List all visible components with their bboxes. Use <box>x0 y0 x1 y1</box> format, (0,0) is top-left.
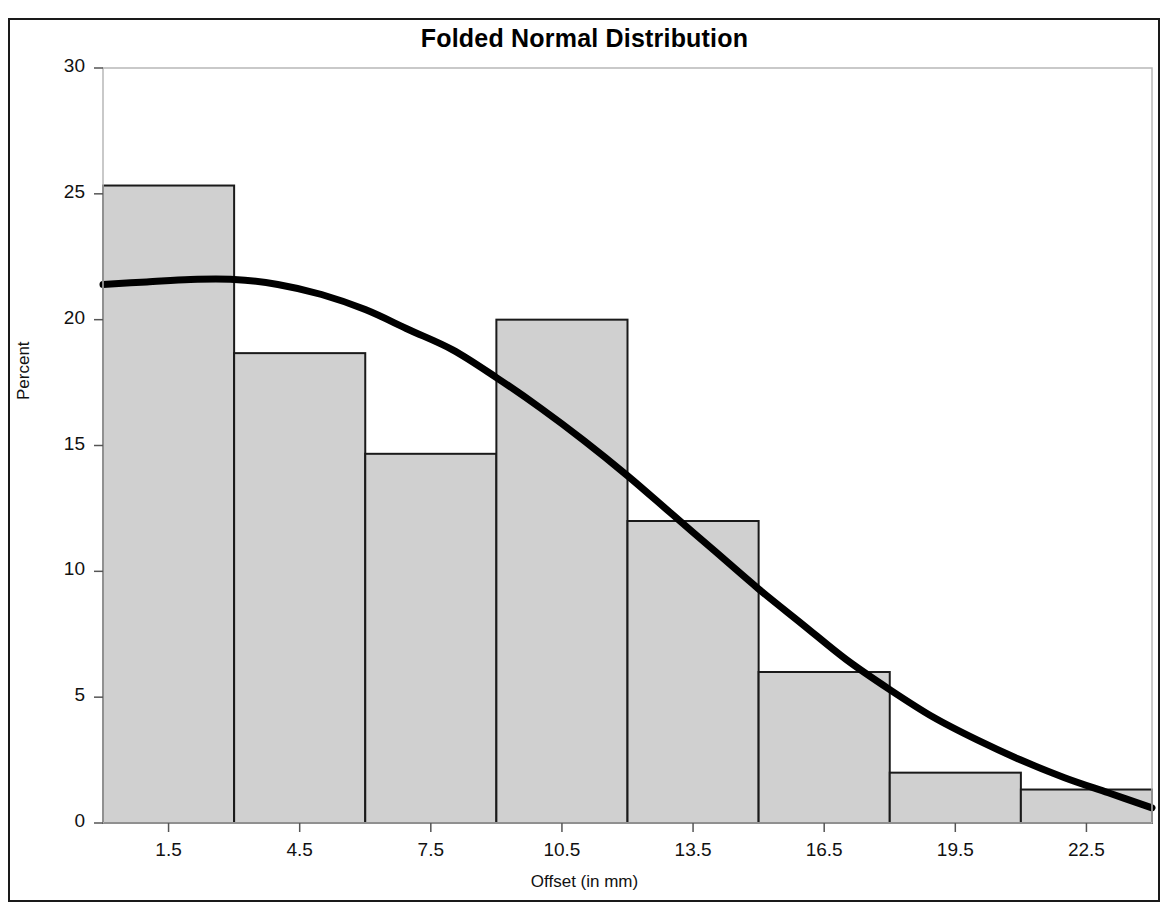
x-tick-label: 22.5 <box>1036 839 1136 861</box>
y-axis-label: Percent <box>14 341 34 400</box>
x-tick-label: 19.5 <box>905 839 1005 861</box>
histogram-bar <box>234 353 365 823</box>
x-tick-label: 13.5 <box>643 839 743 861</box>
y-tick-label: 15 <box>23 433 85 455</box>
histogram-bar <box>890 773 1021 823</box>
y-tick-label: 10 <box>23 558 85 580</box>
histogram-bar <box>365 454 496 823</box>
histogram-bar <box>496 320 627 823</box>
x-tick-label: 10.5 <box>512 839 612 861</box>
chart-figure: Folded Normal Distribution Percent Offse… <box>0 0 1169 920</box>
x-tick-label: 4.5 <box>250 839 350 861</box>
y-tick-label: 5 <box>23 684 85 706</box>
x-tick-label: 7.5 <box>381 839 481 861</box>
y-tick-label: 20 <box>23 307 85 329</box>
histogram-bar <box>759 672 890 823</box>
plot-area <box>0 0 1169 920</box>
y-tick-label: 30 <box>23 55 85 77</box>
x-axis-label: Offset (in mm) <box>0 872 1169 892</box>
x-tick-label: 1.5 <box>119 839 219 861</box>
histogram-bar <box>628 521 759 823</box>
y-tick-label: 0 <box>23 810 85 832</box>
x-tick-label: 16.5 <box>774 839 874 861</box>
y-tick-label: 25 <box>23 181 85 203</box>
histogram-bar <box>1021 790 1152 823</box>
